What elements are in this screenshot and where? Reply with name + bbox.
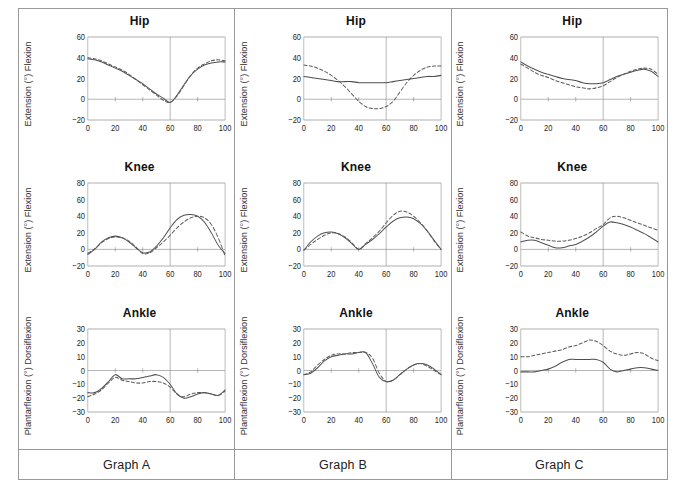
svg-text:40: 40 <box>571 123 580 134</box>
y-axis-label: Plantarflexion (°) Dorsiflexion <box>20 313 36 439</box>
svg-text:20: 20 <box>509 337 518 348</box>
svg-text:40: 40 <box>139 415 148 426</box>
graph-footer-label-c: Graph C <box>452 449 667 479</box>
chart-a-knee: Knee Extension (°) Flexion −200204060800… <box>19 157 234 303</box>
svg-text:0: 0 <box>513 94 517 105</box>
svg-text:30: 30 <box>77 323 86 334</box>
svg-text:100: 100 <box>651 123 664 134</box>
chart-c-hip: Hip Extension (°) Flexion −2002040600204… <box>452 11 667 157</box>
svg-text:40: 40 <box>509 211 518 222</box>
chart-b-ankle: Ankle Plantarflexion (°) Dorsiflexion −3… <box>235 303 450 449</box>
svg-text:80: 80 <box>193 415 202 426</box>
svg-text:−20: −20 <box>72 260 85 271</box>
plot-area: −30−20−100102030020406080100 <box>498 325 661 429</box>
svg-text:100: 100 <box>435 269 448 280</box>
svg-text:40: 40 <box>139 269 148 280</box>
svg-text:0: 0 <box>302 415 306 426</box>
svg-text:100: 100 <box>219 269 232 280</box>
svg-text:−10: −10 <box>72 379 85 390</box>
svg-text:0: 0 <box>297 365 301 376</box>
plot-area: −20020406080020406080100 <box>498 179 661 283</box>
y-axis-label: Extension (°) Flexion <box>453 21 469 147</box>
svg-text:60: 60 <box>166 269 175 280</box>
svg-text:20: 20 <box>509 227 518 238</box>
svg-text:20: 20 <box>327 269 336 280</box>
svg-text:20: 20 <box>77 337 86 348</box>
chart-title: Ankle <box>19 306 234 320</box>
svg-text:−30: −30 <box>289 406 302 417</box>
svg-text:60: 60 <box>599 415 608 426</box>
svg-text:40: 40 <box>571 415 580 426</box>
svg-text:40: 40 <box>355 415 364 426</box>
svg-text:0: 0 <box>518 269 522 280</box>
y-axis-label: Plantarflexion (°) Dorsiflexion <box>236 313 252 439</box>
svg-text:−30: −30 <box>72 406 85 417</box>
svg-text:100: 100 <box>651 269 664 280</box>
svg-text:10: 10 <box>77 351 86 362</box>
svg-text:60: 60 <box>166 415 175 426</box>
svg-text:40: 40 <box>355 123 364 134</box>
svg-text:80: 80 <box>193 269 202 280</box>
svg-text:0: 0 <box>297 244 301 255</box>
graph-column-b-charts: Hip Extension (°) Flexion −2002040600204… <box>235 9 450 449</box>
svg-text:60: 60 <box>599 123 608 134</box>
svg-text:−20: −20 <box>289 393 302 404</box>
svg-text:−20: −20 <box>505 114 518 125</box>
svg-text:−20: −20 <box>72 393 85 404</box>
svg-text:−10: −10 <box>289 379 302 390</box>
chart-c-knee: Knee Extension (°) Flexion −200204060800… <box>452 157 667 303</box>
chart-title: Hip <box>235 14 450 28</box>
svg-text:60: 60 <box>509 194 518 205</box>
svg-text:80: 80 <box>410 269 419 280</box>
svg-text:40: 40 <box>139 123 148 134</box>
plot-area: −200204060020406080100 <box>498 33 661 137</box>
svg-text:80: 80 <box>410 415 419 426</box>
chart-a-ankle: Ankle Plantarflexion (°) Dorsiflexion −3… <box>19 303 234 449</box>
svg-text:−30: −30 <box>505 406 518 417</box>
gait-analysis-figure: Hip Extension (°) Flexion −2002040600204… <box>0 0 686 492</box>
svg-text:20: 20 <box>293 73 302 84</box>
chart-title: Ankle <box>452 306 667 320</box>
svg-text:20: 20 <box>293 337 302 348</box>
svg-text:100: 100 <box>435 123 448 134</box>
chart-title: Hip <box>19 14 234 28</box>
graph-column-b: Hip Extension (°) Flexion −2002040600204… <box>235 9 451 479</box>
svg-text:80: 80 <box>293 177 302 188</box>
svg-text:60: 60 <box>77 194 86 205</box>
chart-c-ankle: Ankle Plantarflexion (°) Dorsiflexion −3… <box>452 303 667 449</box>
svg-text:20: 20 <box>327 415 336 426</box>
y-axis-label: Plantarflexion (°) Dorsiflexion <box>453 313 469 439</box>
svg-text:20: 20 <box>111 123 120 134</box>
svg-text:20: 20 <box>293 227 302 238</box>
svg-text:40: 40 <box>293 52 302 63</box>
plot-area: −20020406080020406080100 <box>281 179 444 283</box>
svg-text:60: 60 <box>509 31 518 42</box>
chart-title: Knee <box>452 160 667 174</box>
svg-text:80: 80 <box>193 123 202 134</box>
plot-area: −30−20−100102030020406080100 <box>281 325 444 429</box>
chart-b-knee: Knee Extension (°) Flexion −200204060800… <box>235 157 450 303</box>
svg-text:40: 40 <box>77 52 86 63</box>
graph-footer-label-b: Graph B <box>235 449 450 479</box>
svg-text:80: 80 <box>77 177 86 188</box>
graph-footer-label-a: Graph A <box>19 449 234 479</box>
svg-text:40: 40 <box>293 211 302 222</box>
svg-text:80: 80 <box>410 123 419 134</box>
svg-text:40: 40 <box>571 269 580 280</box>
svg-text:100: 100 <box>219 415 232 426</box>
svg-text:80: 80 <box>509 177 518 188</box>
svg-text:0: 0 <box>86 269 90 280</box>
svg-text:60: 60 <box>77 31 86 42</box>
svg-text:−20: −20 <box>505 260 518 271</box>
svg-text:20: 20 <box>77 227 86 238</box>
svg-text:0: 0 <box>513 244 517 255</box>
svg-text:20: 20 <box>544 123 553 134</box>
graph-column-a-charts: Hip Extension (°) Flexion −2002040600204… <box>19 9 234 449</box>
graphs-table: Hip Extension (°) Flexion −2002040600204… <box>18 8 668 480</box>
svg-text:0: 0 <box>86 123 90 134</box>
svg-text:20: 20 <box>111 269 120 280</box>
svg-text:40: 40 <box>355 269 364 280</box>
graph-column-c: Hip Extension (°) Flexion −2002040600204… <box>452 9 667 479</box>
svg-text:0: 0 <box>81 244 85 255</box>
svg-text:0: 0 <box>302 269 306 280</box>
